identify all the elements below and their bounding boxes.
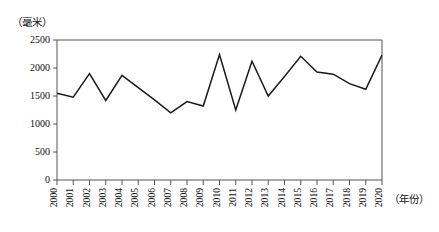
x-tick-label: 2002 — [81, 188, 92, 207]
line-chart-plot: 05001000150020002500 2000200120022003200… — [0, 0, 439, 232]
x-tick-label: 2019 — [357, 188, 368, 207]
x-tick-label: 2016 — [308, 188, 319, 207]
y-tick-label: 1500 — [30, 90, 50, 101]
x-tick-label: 2007 — [162, 188, 173, 207]
x-tick-label: 2004 — [113, 188, 124, 207]
x-tick-label: 2005 — [129, 188, 140, 207]
x-tick-label: 2013 — [259, 188, 270, 207]
x-tick-label: 2008 — [178, 188, 189, 207]
x-tick-label: 2001 — [64, 188, 75, 207]
y-tick-label: 1000 — [30, 118, 50, 129]
chart-figure: （毫米） （年份） 05001000150020002500 200020012… — [0, 0, 439, 232]
y-tick-label: 2500 — [30, 34, 50, 45]
x-tick-label: 2011 — [227, 188, 238, 207]
x-tick-label: 2006 — [146, 188, 157, 207]
plot-frame — [57, 40, 382, 180]
y-axis-ticks: 05001000150020002500 — [30, 34, 57, 185]
x-tick-label: 2018 — [341, 188, 352, 207]
x-tick-label: 2012 — [243, 188, 254, 207]
x-tick-label: 2000 — [48, 188, 59, 207]
x-tick-label: 2010 — [211, 188, 222, 207]
precipitation-line — [57, 55, 382, 113]
x-tick-label: 2003 — [97, 188, 108, 207]
data-series-line — [57, 55, 382, 113]
y-tick-label: 500 — [35, 146, 50, 157]
x-tick-label: 2014 — [276, 188, 287, 207]
y-tick-label: 2000 — [30, 62, 50, 73]
x-tick-label: 2009 — [194, 188, 205, 207]
x-tick-label: 2017 — [324, 188, 335, 207]
y-tick-label: 0 — [45, 174, 50, 185]
x-tick-label: 2020 — [373, 188, 384, 207]
x-tick-label: 2015 — [292, 188, 303, 207]
x-axis-ticks: 2000200120022003200420052006200720082009… — [48, 180, 384, 207]
